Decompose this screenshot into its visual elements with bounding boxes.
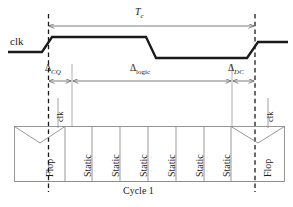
block-label-static-2: Static xyxy=(111,154,121,177)
flop-chevron-left xyxy=(15,127,66,144)
clock-waveform xyxy=(8,37,288,58)
delta-dc-subscript: DC xyxy=(234,68,244,76)
delta-logic-subscript: logic xyxy=(136,68,150,76)
delta-dc-label: ΔDC xyxy=(228,64,244,76)
clk-tap-leaders xyxy=(58,98,268,128)
block-label-static-6: Static xyxy=(222,154,232,177)
block-label-flop-right: Flop xyxy=(263,159,273,177)
cycle-time-subscript: c xyxy=(141,12,144,20)
block-label-static-4: Static xyxy=(167,154,177,177)
block-label-static-1: Static xyxy=(83,154,93,177)
delta-logic-label: Δlogic xyxy=(130,64,150,76)
delta-cq-subscript: CQ xyxy=(51,68,61,76)
clk-signal-label: clk xyxy=(10,36,23,47)
delta-cq-label: ΔCQ xyxy=(45,64,61,76)
cycle-caption: Cycle 1 xyxy=(123,186,154,196)
timing-diagram: Tc clk ΔCQ Δlogic ΔDC clk clk Flop Stati… xyxy=(0,0,293,207)
flop-chevron-right xyxy=(231,127,285,144)
block-label-static-5: Static xyxy=(195,154,205,177)
block-label-flop-left: Flop xyxy=(45,159,55,177)
block-label-static-3: Static xyxy=(139,154,149,177)
interval-ticks xyxy=(72,64,232,127)
clk-tap-label-right: clk xyxy=(266,112,275,122)
block-row xyxy=(15,127,285,182)
clk-tap-label-left: clk xyxy=(56,112,65,122)
cycle-time-label: Tc xyxy=(135,7,144,20)
